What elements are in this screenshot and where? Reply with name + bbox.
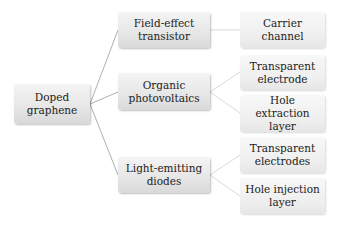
connector-opv-hole-extraction — [210, 92, 240, 113]
node-doped-graphene: Doped graphene — [14, 84, 90, 124]
node-light-emitting-diodes: Light-emitting diodes — [118, 157, 210, 193]
connector-led-electrodes — [210, 155, 240, 175]
doped-graphene-tree-diagram: Doped graphene Field-effect transistor C… — [0, 0, 342, 230]
node-label: Light-emitting diodes — [126, 162, 202, 188]
node-hole-extraction-layer: Hole extraction layer — [240, 95, 325, 132]
node-label: Hole extraction layer — [255, 94, 309, 133]
node-carrier-channel: Carrier channel — [240, 12, 325, 48]
node-label: Transparent electrodes — [250, 142, 316, 168]
node-label: Hole injection layer — [245, 183, 320, 209]
node-label: Field-effect transistor — [134, 17, 194, 43]
node-transparent-electrodes: Transparent electrodes — [240, 137, 325, 173]
connector-root-fet — [90, 30, 118, 104]
node-label: Organic photovoltaics — [128, 79, 199, 105]
node-field-effect-transistor: Field-effect transistor — [118, 12, 210, 48]
node-label: Transparent electrode — [250, 60, 316, 86]
node-organic-photovoltaics: Organic photovoltaics — [118, 73, 210, 110]
connector-root-led — [90, 104, 118, 175]
connector-led-hole-injection — [210, 175, 240, 196]
connector-opv-electrode — [210, 72, 240, 92]
node-label: Carrier channel — [262, 17, 304, 43]
node-transparent-electrode: Transparent electrode — [240, 55, 325, 90]
node-hole-injection-layer: Hole injection layer — [240, 178, 325, 214]
node-label: Doped graphene — [27, 91, 78, 117]
